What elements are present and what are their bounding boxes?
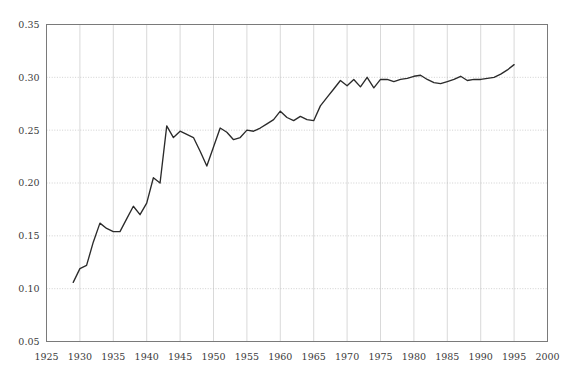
x-tick-label: 1995 xyxy=(502,351,526,362)
x-tick-label: 1975 xyxy=(368,351,392,362)
chart-canvas: 0.050.100.150.200.250.300.35 19251930193… xyxy=(0,0,579,384)
x-tick-label: 1990 xyxy=(469,351,493,362)
y-tick-label: 0.15 xyxy=(18,230,39,241)
y-tick-label: 0.05 xyxy=(18,336,39,347)
x-tick-label: 1955 xyxy=(235,351,259,362)
x-tick-label: 1935 xyxy=(101,351,125,362)
y-axis-tick-labels: 0.050.100.150.200.250.300.35 xyxy=(18,19,39,347)
y-tick-label: 0.25 xyxy=(18,125,39,136)
x-axis-tick-labels: 1925193019351940194519501955196019651970… xyxy=(34,351,559,362)
x-tick-label: 1985 xyxy=(435,351,459,362)
line-chart: 0.050.100.150.200.250.300.35 19251930193… xyxy=(0,0,579,384)
x-tick-label: 1940 xyxy=(135,351,159,362)
x-tick-label: 1980 xyxy=(402,351,426,362)
y-tick-label: 0.20 xyxy=(18,177,39,188)
x-tick-label: 1970 xyxy=(335,351,359,362)
x-tick-label: 1965 xyxy=(302,351,326,362)
x-tick-label: 1960 xyxy=(268,351,292,362)
y-tick-label: 0.35 xyxy=(18,19,39,30)
y-tick-label: 0.30 xyxy=(18,72,39,83)
x-tick-label: 1950 xyxy=(201,351,225,362)
x-tick-label: 1930 xyxy=(68,351,92,362)
x-tick-label: 1925 xyxy=(34,351,58,362)
y-tick-label: 0.10 xyxy=(18,283,39,294)
grid-lines xyxy=(47,25,548,342)
x-tick-label: 2000 xyxy=(535,351,559,362)
x-tick-label: 1945 xyxy=(168,351,192,362)
data-series-line xyxy=(73,65,514,283)
